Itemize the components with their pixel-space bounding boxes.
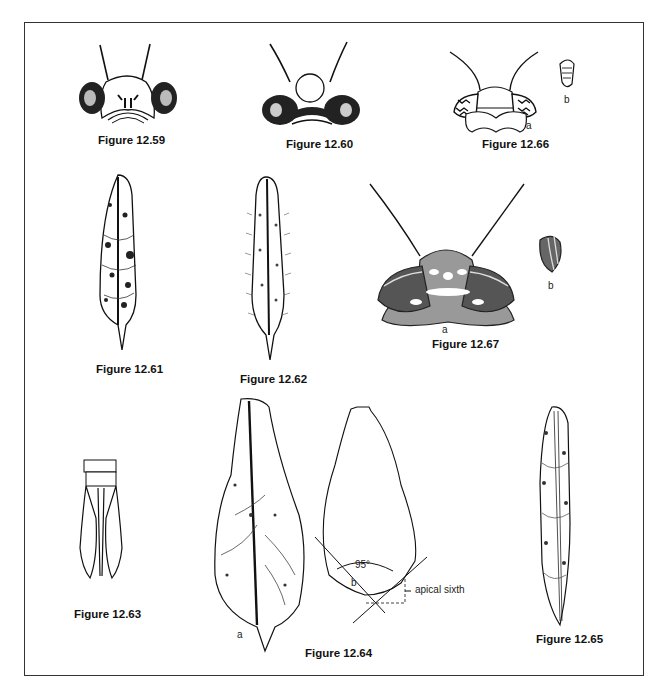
figure-12-67: a b Figure 12.67 bbox=[368, 180, 568, 360]
wing-drawing-12-62 bbox=[240, 175, 360, 395]
sublabel-a: a bbox=[442, 324, 448, 335]
insect-head-drawing-12-67 bbox=[368, 180, 568, 360]
sublabel-a: a bbox=[237, 629, 243, 640]
figure-caption: Figure 12.61 bbox=[96, 363, 163, 375]
figure-12-66: a b Figure 12.66 bbox=[448, 50, 618, 150]
sublabel-a: a bbox=[526, 120, 532, 131]
figure-12-61: Figure 12.61 bbox=[90, 175, 210, 395]
angle-annotation: 95° bbox=[355, 559, 370, 570]
figure-caption: Figure 12.63 bbox=[74, 608, 141, 620]
sublabel-b: b bbox=[351, 577, 357, 588]
figure-12-62: Figure 12.62 bbox=[240, 175, 360, 395]
insect-head-drawing-12-60 bbox=[262, 40, 362, 130]
figure-12-64: a b 95° apical sixth Figure 12.64 bbox=[205, 395, 485, 665]
figure-caption: Figure 12.60 bbox=[286, 138, 353, 150]
figure-12-59: Figure 12.59 bbox=[78, 40, 178, 130]
apical-sixth-annotation: apical sixth bbox=[415, 584, 464, 595]
wing-angle-diagram-12-64 bbox=[205, 395, 485, 665]
abdomen-drawing-12-63 bbox=[72, 458, 182, 608]
figure-caption: Figure 12.65 bbox=[536, 633, 603, 645]
figure-12-63: Figure 12.63 bbox=[72, 458, 182, 608]
insect-head-drawing-12-59 bbox=[78, 40, 178, 130]
figure-caption: Figure 12.66 bbox=[482, 138, 549, 150]
figure-12-65: Figure 12.65 bbox=[530, 403, 640, 673]
insect-head-drawing-12-66 bbox=[448, 50, 618, 150]
wing-drawing-12-61 bbox=[90, 175, 210, 395]
figure-caption: Figure 12.59 bbox=[98, 134, 165, 146]
figure-caption: Figure 12.67 bbox=[432, 338, 499, 350]
figure-caption: Figure 12.62 bbox=[240, 373, 307, 385]
sublabel-b: b bbox=[564, 94, 570, 105]
figure-12-60: Figure 12.60 bbox=[262, 40, 362, 130]
sublabel-b: b bbox=[548, 280, 554, 291]
figure-caption: Figure 12.64 bbox=[305, 647, 372, 659]
